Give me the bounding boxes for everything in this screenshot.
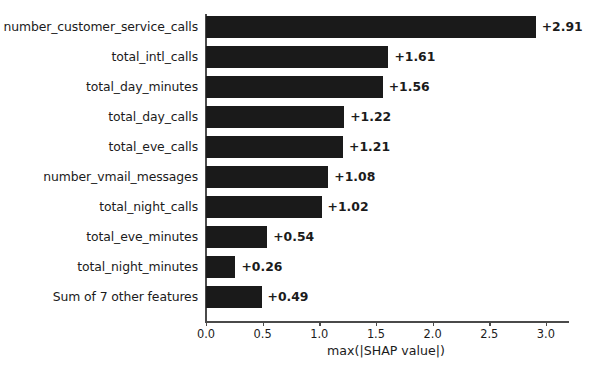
- bar-category-label: total_intl_calls: [112, 46, 198, 68]
- bar-row: number_vmail_messages+1.08: [0, 166, 590, 188]
- bar-row: total_intl_calls+1.61: [0, 46, 590, 68]
- bar-row: total_eve_calls+1.21: [0, 136, 590, 158]
- bar: [206, 136, 343, 158]
- bar-category-label: total_eve_calls: [108, 136, 198, 158]
- bar: [206, 16, 536, 38]
- bar: [206, 166, 328, 188]
- bar-row: Sum of 7 other features+0.49: [0, 286, 590, 308]
- bar-value-label: +0.26: [241, 256, 282, 278]
- bar: [206, 256, 235, 278]
- bar-row: total_day_calls+1.22: [0, 106, 590, 128]
- bar-rows-container: number_customer_service_calls+2.91total_…: [0, 16, 590, 316]
- bar-value-label: +1.02: [328, 196, 369, 218]
- bar: [206, 286, 262, 308]
- bar: [206, 106, 344, 128]
- x-axis-tick: [376, 322, 377, 326]
- x-axis-tick-label: 0.0: [197, 327, 215, 341]
- bar-category-label: total_day_minutes: [86, 76, 198, 98]
- bar-category-label: number_customer_service_calls: [3, 16, 198, 38]
- bar-category-label: total_eve_minutes: [86, 226, 198, 248]
- bar-row: total_day_minutes+1.56: [0, 76, 590, 98]
- x-axis-tick-label: 1.5: [367, 327, 385, 341]
- x-axis-tick-label: 0.5: [254, 327, 272, 341]
- x-axis-tick: [263, 322, 264, 326]
- x-axis-spine: [205, 321, 569, 323]
- x-axis-tick: [319, 322, 320, 326]
- bar-row: total_eve_minutes+0.54: [0, 226, 590, 248]
- bar: [206, 196, 322, 218]
- bar-value-label: +0.54: [273, 226, 314, 248]
- bar-value-label: +1.56: [389, 76, 430, 98]
- x-axis-tick: [546, 322, 547, 326]
- bar-value-label: +1.22: [350, 106, 391, 128]
- bar: [206, 226, 267, 248]
- x-axis-tick-label: 2.0: [424, 327, 442, 341]
- bar: [206, 46, 388, 68]
- x-axis-title: max(|SHAP value|): [0, 343, 590, 358]
- x-axis-tick: [433, 322, 434, 326]
- shap-feature-importance-chart: number_customer_service_calls+2.91total_…: [0, 0, 590, 374]
- x-axis-tick-label: 2.5: [480, 327, 498, 341]
- bar: [206, 76, 383, 98]
- bar-category-label: total_day_calls: [108, 106, 198, 128]
- x-axis-tick: [206, 322, 207, 326]
- bar-row: total_night_calls+1.02: [0, 196, 590, 218]
- bar-category-label: Sum of 7 other features: [53, 286, 198, 308]
- x-axis-title-text: max(|SHAP value|): [327, 343, 445, 358]
- bar-value-label: +1.61: [394, 46, 435, 68]
- bar-row: total_night_minutes+0.26: [0, 256, 590, 278]
- x-axis-tick-label: 3.0: [537, 327, 555, 341]
- bar-value-label: +1.08: [334, 166, 375, 188]
- bar-row: number_customer_service_calls+2.91: [0, 16, 590, 38]
- bar-category-label: total_night_minutes: [77, 256, 198, 278]
- bar-value-label: +1.21: [349, 136, 390, 158]
- bar-value-label: +2.91: [542, 16, 583, 38]
- x-axis-tick: [489, 322, 490, 326]
- bar-category-label: number_vmail_messages: [43, 166, 198, 188]
- x-axis-tick-label: 1.0: [310, 327, 328, 341]
- bar-value-label: +0.49: [268, 286, 309, 308]
- bar-category-label: total_night_calls: [99, 196, 198, 218]
